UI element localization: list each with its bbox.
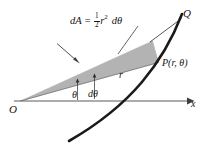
point-label-p: P(r, θ) (162, 58, 187, 68)
point-label-q: Q (183, 8, 191, 19)
formula-label: dA=12r2dθ (70, 13, 122, 29)
angle-theta-label: θ (72, 90, 77, 100)
radius-label: r (119, 70, 123, 80)
ray-line-OQ-extension (150, 19, 182, 43)
formula-fraction: 12 (94, 13, 100, 29)
formula-exponent: 2 (104, 13, 108, 21)
formula-equals: = (85, 15, 91, 26)
angle-dtheta-label: dθ (88, 89, 98, 99)
formula-numerator: 1 (94, 13, 100, 21)
origin-label: O (9, 104, 17, 115)
x-axis-label: x (191, 99, 195, 109)
polar-area-diagram: dA=12r2dθ Q P(r, θ) r θ dθ O x (0, 0, 203, 152)
formula-dtheta: dθ (112, 15, 122, 26)
formula-lhs: dA (70, 15, 82, 26)
wedge-pointer-arrow-line (57, 44, 77, 62)
formula-denominator: 2 (94, 21, 100, 30)
